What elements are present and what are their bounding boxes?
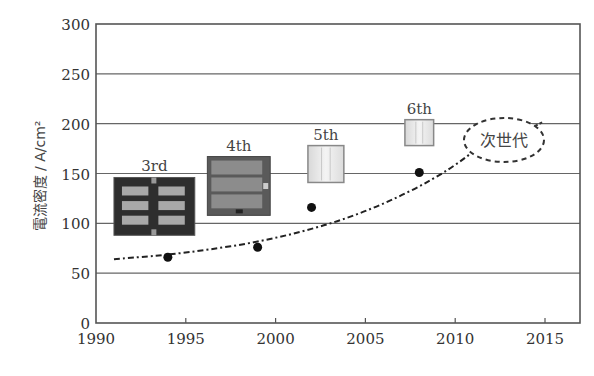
- y-axis-ticks: 050100150200250300: [61, 16, 90, 333]
- data-point: [253, 243, 262, 252]
- chip-die: [405, 120, 434, 146]
- chip-block: [122, 201, 148, 210]
- chip-pad: [151, 177, 156, 183]
- y-tick-label: 150: [61, 166, 90, 184]
- chip-pad: [151, 229, 156, 235]
- chip-block: [158, 216, 184, 225]
- chip-block: [122, 186, 148, 195]
- chart: 050100150200250300 199019952000200520102…: [0, 0, 594, 376]
- x-tick-label: 2010: [436, 330, 474, 348]
- data-point: [307, 203, 316, 212]
- chip-generations: 3rd4th5th6th: [114, 100, 434, 236]
- generation-label: 6th: [407, 100, 433, 118]
- next-gen-label: 次世代: [480, 131, 528, 150]
- generation-label: 3rd: [141, 157, 168, 175]
- x-tick-label: 1995: [167, 330, 205, 348]
- data-point: [163, 253, 172, 262]
- next-gen-annotation: 次世代: [464, 118, 544, 162]
- chip-block: [211, 161, 262, 175]
- x-tick-label: 2005: [346, 330, 384, 348]
- chip-block: [211, 177, 262, 191]
- chip-3rd: 3rd: [114, 157, 195, 235]
- data-point: [415, 168, 424, 177]
- x-tick-label: 1990: [77, 330, 115, 348]
- chip-pad: [236, 209, 243, 213]
- y-tick-label: 300: [61, 16, 90, 34]
- generation-label: 4th: [226, 137, 252, 155]
- chip-block: [211, 194, 262, 208]
- chip-5th: 5th: [308, 126, 344, 183]
- chip-6th: 6th: [405, 100, 434, 146]
- x-tick-label: 2000: [257, 330, 295, 348]
- y-tick-label: 250: [61, 66, 90, 84]
- chip-die: [308, 146, 344, 183]
- generation-label: 5th: [313, 126, 339, 144]
- y-tick-label: 100: [61, 215, 90, 233]
- x-tick-label: 2015: [526, 330, 564, 348]
- chip-pad: [263, 183, 268, 189]
- y-tick-label: 50: [71, 265, 90, 283]
- chip-block: [158, 201, 184, 210]
- chip-block: [158, 186, 184, 195]
- chip-4th: 4th: [207, 137, 270, 216]
- data-points: [163, 168, 423, 262]
- y-tick-label: 200: [61, 116, 90, 134]
- chip-block: [122, 216, 148, 225]
- y-axis-label: 電流密度 / A/cm²: [32, 121, 48, 232]
